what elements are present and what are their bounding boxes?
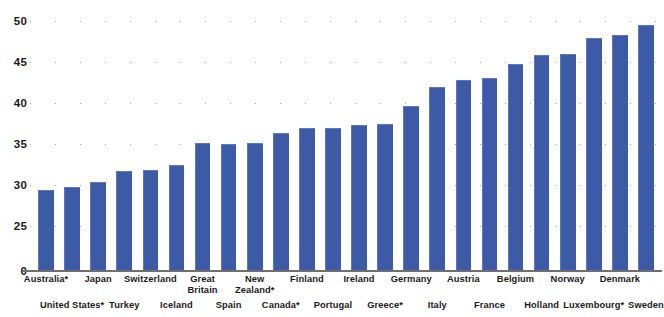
x-axis-label: Germany: [391, 274, 432, 285]
bar[interactable]: [482, 78, 498, 271]
bar[interactable]: [64, 187, 80, 271]
x-axis-label: Italy: [428, 300, 447, 311]
x-axis-label: Belgium: [497, 274, 534, 285]
bar[interactable]: [638, 25, 654, 271]
bar[interactable]: [377, 124, 393, 272]
bar[interactable]: [508, 64, 524, 271]
bar[interactable]: [325, 128, 341, 271]
x-axis-label: Australia*: [24, 274, 68, 285]
x-axis-label: Ireland: [343, 274, 374, 285]
bar[interactable]: [143, 170, 159, 271]
bars-container: [30, 0, 662, 271]
bar[interactable]: [299, 128, 315, 271]
bar[interactable]: [273, 133, 289, 271]
x-axis-label: Turkey: [109, 300, 139, 311]
x-axis-label: Holland: [524, 300, 559, 311]
bar[interactable]: [429, 87, 445, 271]
x-axis-label: Portugal: [314, 300, 353, 311]
y-tick-label: 30: [14, 180, 27, 191]
x-axis-label: Japan: [85, 274, 112, 285]
bar[interactable]: [612, 35, 628, 271]
bar[interactable]: [116, 171, 132, 271]
y-tick-label: 45: [14, 57, 27, 68]
plot-area: [30, 0, 662, 271]
x-axis-labels: Australia*United States*JapanTurkeySwitz…: [30, 272, 662, 317]
x-axis-label: Iceland: [160, 300, 193, 311]
bar[interactable]: [90, 182, 106, 271]
x-axis-label: Switzerland: [124, 274, 177, 285]
bar[interactable]: [247, 143, 263, 271]
bar[interactable]: [403, 106, 419, 271]
x-axis-label: France: [474, 300, 505, 311]
x-axis-label: Luxembourg*: [563, 300, 624, 311]
y-tick-label: 50: [14, 16, 27, 27]
x-axis-label: Austria: [447, 274, 480, 285]
x-axis-label: New Zealand*: [235, 274, 275, 295]
bar[interactable]: [351, 125, 367, 271]
x-axis-label: Denmark: [600, 274, 641, 285]
y-tick-label: 35: [14, 139, 27, 150]
x-axis-label: Norway: [551, 274, 585, 285]
x-axis-label: Spain: [216, 300, 242, 311]
bar[interactable]: [560, 54, 576, 271]
bar[interactable]: [586, 38, 602, 271]
x-axis-label: Finland: [290, 274, 324, 285]
y-tick-label: 40: [14, 98, 27, 109]
bar[interactable]: [534, 55, 550, 271]
bar[interactable]: [169, 165, 185, 272]
bar[interactable]: [195, 143, 211, 271]
bar[interactable]: [38, 190, 54, 271]
x-axis-label: Sweden: [628, 300, 664, 311]
y-tick-label: 25: [14, 221, 27, 232]
bar[interactable]: [221, 144, 237, 271]
x-axis-label: Great Britain: [187, 274, 217, 295]
y-axis: 0253035404550: [0, 0, 30, 275]
bar[interactable]: [456, 80, 472, 271]
x-axis-label: Greece*: [367, 300, 403, 311]
x-axis-label: Canada*: [262, 300, 300, 311]
x-axis-label: United States*: [40, 300, 104, 311]
